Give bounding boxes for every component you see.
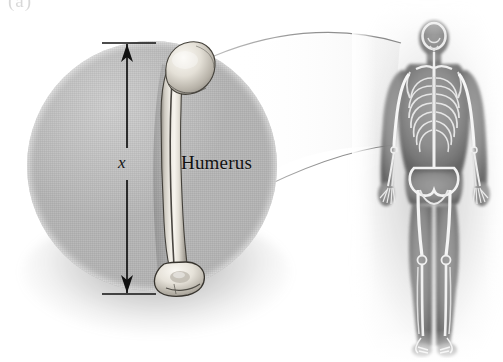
figure-anatomy-humerus: (a) <box>0 0 503 362</box>
dimension-label-x: x <box>118 153 126 173</box>
tibia-left <box>422 265 423 336</box>
skeleton-bones <box>380 23 488 353</box>
humeral-head-highlight <box>172 51 198 69</box>
skeleton-xray-illustration <box>366 18 502 358</box>
trochlea-highlight <box>173 272 185 278</box>
tibia-right <box>445 265 446 336</box>
bone-label-humerus: Humerus <box>181 152 252 174</box>
dimension-line-group <box>96 32 158 300</box>
